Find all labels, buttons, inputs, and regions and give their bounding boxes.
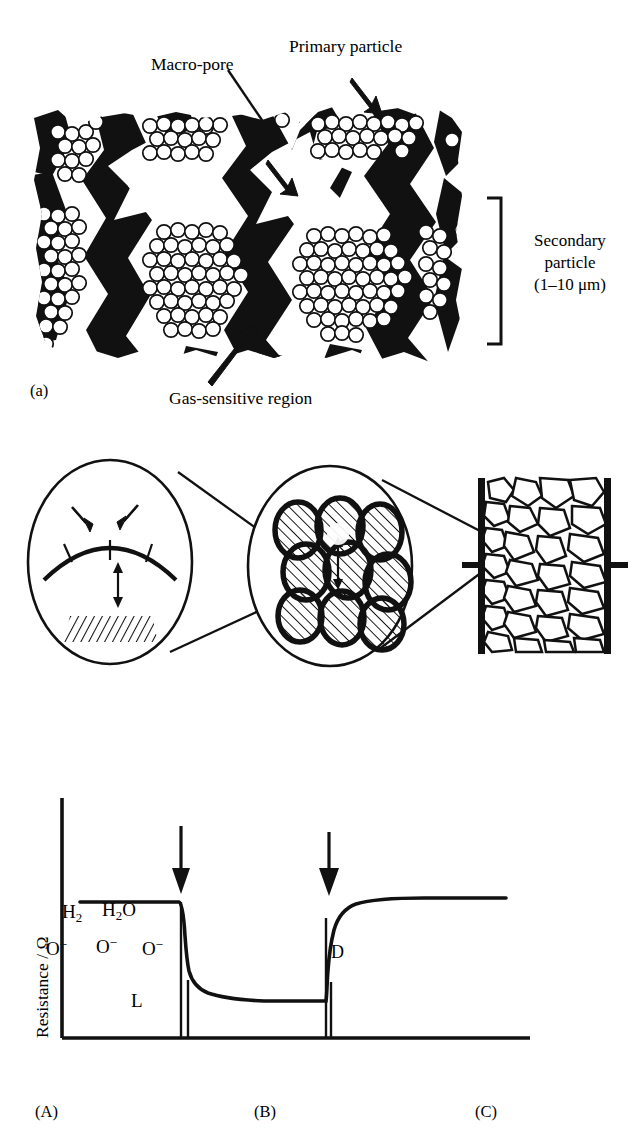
detail-A-surface-reaction — [28, 460, 192, 664]
chart-canvas — [0, 750, 635, 1129]
panel-a-drawing — [0, 0, 635, 420]
gas-out-arrow — [319, 832, 339, 896]
detail-C-film-cross-section — [462, 478, 628, 654]
secondary-particle-line2: particle — [510, 252, 630, 274]
label-primary-particle: Primary particle — [289, 36, 402, 57]
resistance-trace — [80, 898, 506, 1001]
panel-b-drawing — [0, 420, 635, 750]
label-macro-pore: Macro-pore — [151, 54, 234, 75]
secondary-particle-bracket — [487, 198, 501, 344]
panel-tag-a: (a) — [30, 381, 48, 400]
label-secondary-particle: Secondary particle (1–10 μm) — [510, 230, 630, 295]
secondary-particle-line1: Secondary — [510, 230, 630, 252]
event-tick-lines — [181, 902, 331, 1038]
panel-a-secondary-particle: Macro-pore Primary particle Gas-sensitiv… — [0, 0, 635, 420]
figure-root: Macro-pore Primary particle Gas-sensitiv… — [0, 0, 635, 1129]
panel-b-three-scale-model: H2 H2O O− O− O− L D (A) (B) (C) (b) — [0, 420, 635, 750]
panel-c-sensor-response-chart: Resistance / Ω (a) Gas-in Gas-out Air (R… — [0, 750, 635, 1129]
agglomerate-body — [20, 95, 480, 385]
gas-in-arrow — [172, 826, 190, 894]
label-gas-sensitive-region: Gas-sensitive region — [169, 388, 312, 409]
secondary-particle-line3: (1–10 μm) — [510, 274, 630, 296]
detail-B-grain-cluster — [248, 466, 412, 666]
y-axis-title: Resistance / Ω — [32, 937, 53, 1038]
